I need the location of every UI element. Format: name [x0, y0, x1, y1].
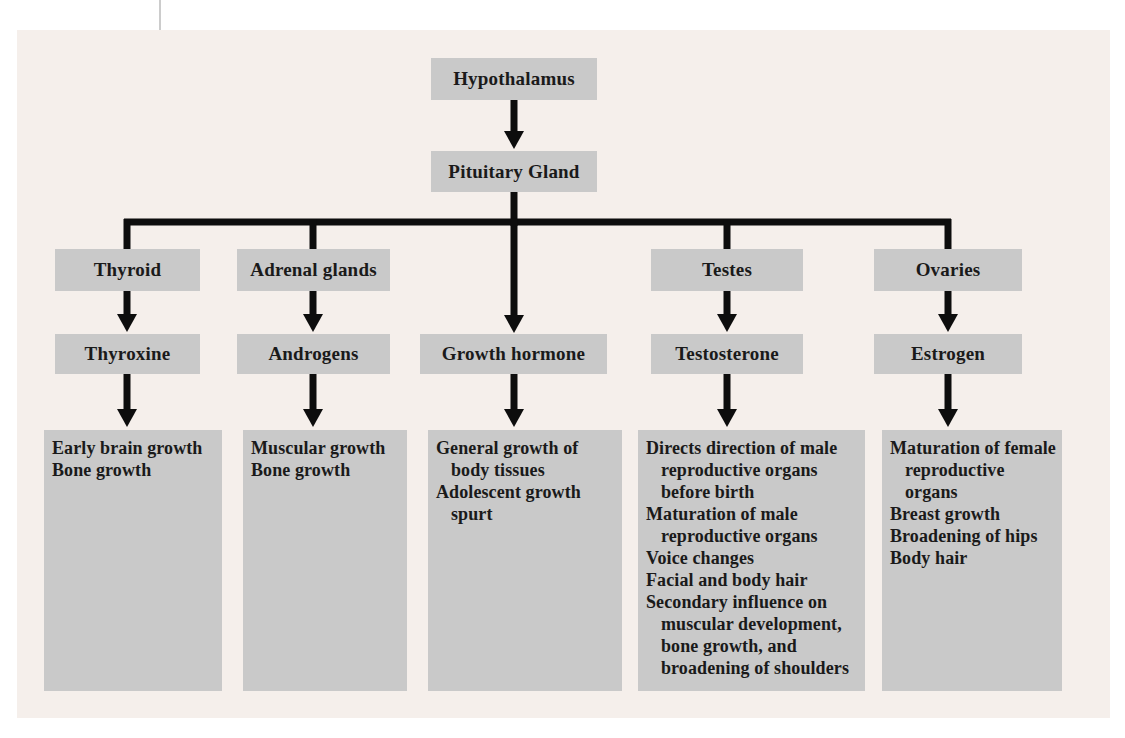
- node-hormone-growth-hormone: Growth hormone: [420, 334, 607, 374]
- effect-item: Body hair: [890, 547, 1056, 569]
- effect-item: Maturation of female reproductive organs: [890, 437, 1056, 503]
- node-gland-adrenal: Adrenal glands: [237, 249, 390, 291]
- effect-item: Early brain growth: [52, 437, 216, 459]
- effect-item: Secondary influence on muscular developm…: [646, 591, 859, 679]
- node-gland-thyroid: Thyroid: [55, 249, 200, 291]
- effects-box-thyroxine: Early brain growth Bone growth: [44, 430, 222, 691]
- node-gland-ovaries: Ovaries: [874, 249, 1022, 291]
- effect-item: Voice changes: [646, 547, 859, 569]
- effects-box-testosterone: Directs direction of male reproductive o…: [638, 430, 865, 691]
- node-gland-testes: Testes: [651, 249, 803, 291]
- effect-item: Directs direction of male reproductive o…: [646, 437, 859, 503]
- page-column-rule: [159, 0, 161, 31]
- effects-box-growth-hormone: General growth of body tissues Adolescen…: [428, 430, 622, 691]
- node-hormone-androgens: Androgens: [237, 334, 390, 374]
- node-hormone-thyroxine: Thyroxine: [55, 334, 200, 374]
- figure-page: Hypothalamus Pituitary Gland Thyroid Adr…: [0, 0, 1125, 738]
- node-hormone-estrogen: Estrogen: [874, 334, 1022, 374]
- effect-item: Maturation of male reproductive organs: [646, 503, 859, 547]
- effect-item: Adolescent growth spurt: [436, 481, 616, 525]
- effects-box-androgens: Muscular growth Bone growth: [243, 430, 407, 691]
- node-pituitary-gland: Pituitary Gland: [431, 151, 597, 192]
- effects-box-estrogen: Maturation of female reproductive organs…: [882, 430, 1062, 691]
- node-hypothalamus: Hypothalamus: [431, 58, 597, 100]
- node-hormone-testosterone: Testosterone: [651, 334, 803, 374]
- effect-item: General growth of body tissues: [436, 437, 616, 481]
- effect-item: Muscular growth: [251, 437, 401, 459]
- effect-item: Bone growth: [251, 459, 401, 481]
- effect-item: Broadening of hips: [890, 525, 1056, 547]
- effect-item: Facial and body hair: [646, 569, 859, 591]
- effect-item: Breast growth: [890, 503, 1056, 525]
- effect-item: Bone growth: [52, 459, 216, 481]
